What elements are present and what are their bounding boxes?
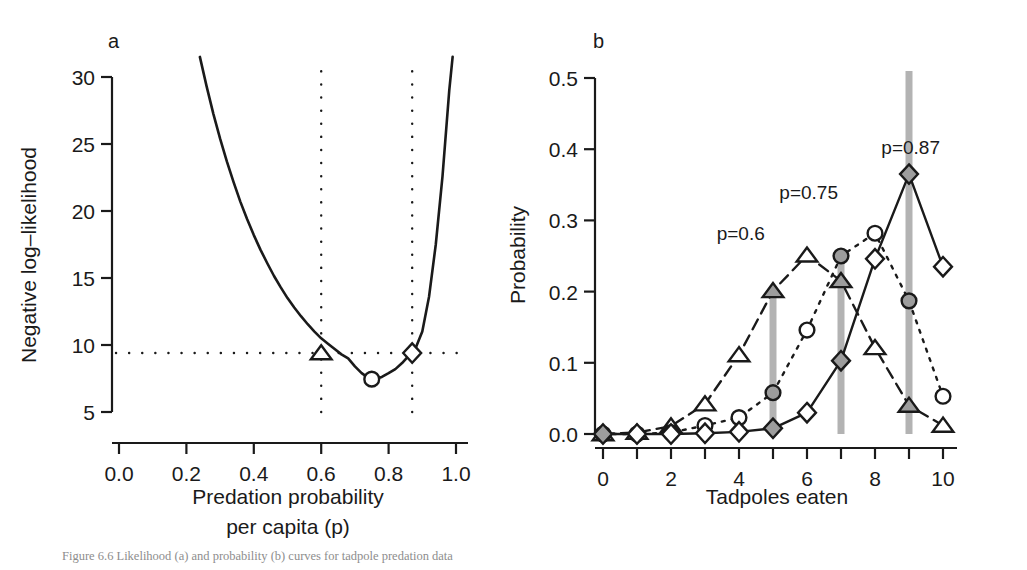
panel-a-letter: a — [108, 30, 120, 52]
panel-a-markers — [311, 343, 421, 386]
svg-text:p=0.6: p=0.6 — [717, 223, 765, 244]
svg-text:0.3: 0.3 — [549, 209, 578, 232]
panel-a-x-axis-label-line1: Predation probability — [192, 485, 384, 508]
svg-text:p=0.87: p=0.87 — [881, 137, 940, 158]
panel-a-x-axis: 0.00.20.40.60.81.0 — [104, 443, 470, 485]
panel-a: a 51015202530 0.00.20.40.60.81.0 Negativ… — [0, 0, 510, 570]
figure-caption: Figure 6.6 Likelihood (a) and probabilit… — [62, 548, 992, 566]
svg-text:0.8: 0.8 — [374, 462, 403, 485]
svg-text:0.5: 0.5 — [549, 67, 578, 90]
panel-a-x-axis-label-line2: per capita (p) — [226, 515, 350, 538]
svg-text:0.0: 0.0 — [104, 462, 133, 485]
svg-text:5: 5 — [83, 401, 95, 424]
panel-a-curve — [200, 57, 453, 379]
svg-text:10: 10 — [931, 467, 954, 490]
svg-text:0.1: 0.1 — [549, 352, 578, 375]
svg-text:0.6: 0.6 — [307, 462, 336, 485]
panel-b-x-axis-label: Tadpoles eaten — [706, 485, 848, 508]
svg-text:10: 10 — [72, 334, 95, 357]
svg-text:15: 15 — [72, 267, 95, 290]
svg-text:30: 30 — [72, 66, 95, 89]
svg-text:1.0: 1.0 — [441, 462, 470, 485]
panel-a-y-axis: 51015202530 — [72, 66, 112, 424]
svg-text:0.4: 0.4 — [239, 462, 269, 485]
svg-text:8: 8 — [869, 467, 881, 490]
figure-container: a 51015202530 0.00.20.40.60.81.0 Negativ… — [0, 0, 1027, 570]
svg-text:20: 20 — [72, 200, 95, 223]
svg-text:0.2: 0.2 — [172, 462, 201, 485]
svg-text:p=0.75: p=0.75 — [779, 182, 838, 203]
panel-b-y-axis: 0.00.10.20.30.40.5 — [549, 67, 595, 446]
svg-text:0.0: 0.0 — [549, 423, 578, 446]
panel-b-x-axis: 0246810 — [595, 448, 957, 490]
panel-b: b 0.00.10.20.30.40.5 0246810 p=0.6p=0.75… — [495, 0, 1027, 570]
svg-text:2: 2 — [665, 467, 677, 490]
panel-a-plot: a 51015202530 0.00.20.40.60.81.0 Negativ… — [0, 0, 510, 570]
panel-b-letter: b — [593, 30, 604, 52]
svg-text:0.4: 0.4 — [549, 138, 579, 161]
panel-b-plot: b 0.00.10.20.30.40.5 0246810 p=0.6p=0.75… — [495, 0, 1027, 570]
svg-text:25: 25 — [72, 133, 95, 156]
panel-b-y-axis-label: Probability — [506, 205, 529, 304]
svg-text:0: 0 — [597, 467, 609, 490]
panel-a-y-axis-label: Negative log–likelihood — [17, 147, 40, 363]
svg-text:0.2: 0.2 — [549, 281, 578, 304]
